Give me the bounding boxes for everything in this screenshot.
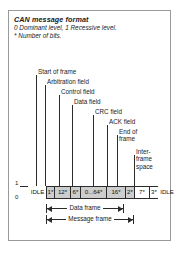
callout-crc-field: CRC field bbox=[95, 108, 122, 115]
field-ack-field: 2* bbox=[125, 186, 134, 199]
figure-panel: CAN message format 0 Dominant level, 1 R… bbox=[8, 10, 171, 241]
leader-inter-frame-space bbox=[134, 155, 135, 186]
span-message-frame: Message frame bbox=[46, 215, 134, 224]
bit-field-row: IDLE 1* 12* 6* 0...64* 16* 2* 7* 3* IDLE bbox=[29, 186, 176, 199]
field-end-of-frame: 7* bbox=[134, 186, 149, 199]
level-high-tick bbox=[20, 186, 28, 187]
field-start-of-frame: 1* bbox=[46, 186, 54, 199]
field-idle-right: IDLE bbox=[158, 186, 176, 199]
level-low-label: 0 bbox=[15, 194, 18, 200]
field-control-field: 6* bbox=[70, 186, 80, 199]
leader-start-of-frame bbox=[36, 75, 37, 186]
leader-control-field bbox=[59, 95, 60, 186]
field-arbitration-field: 12* bbox=[54, 186, 70, 199]
span-data-frame-label-wrap: Data frame bbox=[46, 203, 124, 212]
leader-data-field bbox=[72, 105, 73, 186]
field-data-field: 0...64* bbox=[80, 186, 106, 199]
callout-arbitration-field: Arbitration field bbox=[47, 78, 89, 85]
leader-arbitration-field bbox=[45, 85, 46, 186]
level-high-label: 1 bbox=[15, 180, 18, 186]
leader-crc-field bbox=[93, 115, 94, 186]
field-idle-left: IDLE bbox=[29, 186, 46, 199]
callout-inter-frame-space: Inter-frame space bbox=[136, 148, 158, 170]
leader-ack-field bbox=[107, 125, 108, 186]
callout-end-of-frame: End of frame bbox=[119, 128, 143, 143]
callout-control-field: Control field bbox=[61, 88, 95, 95]
can-message-format-figure: CAN message format 0 Dominant level, 1 R… bbox=[0, 0, 178, 255]
field-inter-frame-space: 3* bbox=[149, 186, 158, 199]
callout-data-field: Data field bbox=[74, 98, 101, 105]
span-message-frame-label-wrap: Message frame bbox=[46, 214, 134, 223]
callout-ack-field: ACK field bbox=[109, 118, 135, 125]
callout-start-of-frame: Start of frame bbox=[38, 68, 76, 75]
field-crc-field: 16* bbox=[106, 186, 125, 199]
span-data-frame: Data frame bbox=[46, 204, 124, 213]
leader-end-of-frame bbox=[117, 135, 118, 186]
